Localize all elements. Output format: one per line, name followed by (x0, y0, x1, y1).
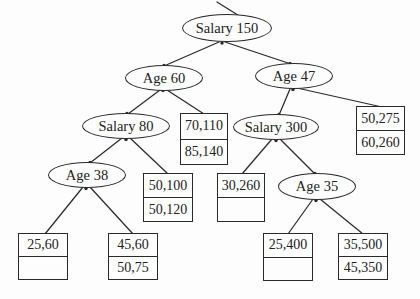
leaf-cell: 50,75 (109, 256, 157, 279)
tree-node-age-60: Age 60 (125, 65, 203, 91)
leaf-cell (19, 256, 67, 279)
edge-age60-leaf-70-110 (167, 90, 204, 114)
leaf-cell: 45,350 (339, 256, 387, 279)
tree-node-salary-150: Salary 150 (182, 14, 272, 42)
edge-salary80-age38 (90, 138, 122, 163)
tree-node-age-38: Age 38 (48, 162, 126, 188)
leaf-cell (218, 197, 264, 221)
edge-root-age60 (164, 42, 219, 66)
edge-age35-leaf-25-400 (288, 199, 313, 234)
leaf-block-45-60: 45,60 50,75 (108, 233, 158, 280)
tree-node-salary-300: Salary 300 (233, 114, 319, 140)
edge-salary300-age35 (280, 139, 315, 174)
leaf-block-25-400: 25,400 (263, 233, 313, 281)
edge-age47-salary300 (279, 89, 290, 115)
tree-node-age-35: Age 35 (278, 173, 356, 200)
edge-root-age47 (225, 42, 291, 64)
leaf-cell: 35,500 (339, 234, 387, 256)
leaf-block-35-500: 35,500 45,350 (338, 233, 388, 280)
leaf-cell: 60,260 (357, 130, 404, 154)
leaf-block-30-260: 30,260 (217, 173, 265, 222)
leaf-cell: 50,100 (144, 174, 192, 197)
edge-age47-leaf-50-275 (297, 88, 382, 107)
edge-age60-salary80 (128, 90, 160, 114)
leaf-cell: 30,260 (218, 174, 264, 197)
edge-age35-leaf-35-500 (320, 199, 363, 234)
leaf-block-70-110: 70,110 85,140 (180, 113, 228, 165)
leaf-cell (264, 257, 312, 281)
edge-salary80-leaf-50-100 (130, 138, 168, 174)
tree-node-salary-80: Salary 80 (82, 113, 170, 139)
edge-age38-leaf-45-60 (90, 187, 133, 234)
leaf-cell: 85,140 (181, 139, 227, 165)
edge-salary300-leaf-30-260 (242, 139, 272, 174)
leaf-cell: 50,275 (357, 107, 404, 130)
leaf-cell: 25,60 (19, 234, 67, 256)
edge-age38-leaf-25-60 (45, 187, 83, 234)
kd-tree-diagram: Salary 150 Age 60 Age 47 Salary 80 Salar… (0, 0, 420, 299)
leaf-block-50-100: 50,100 50,120 (143, 173, 193, 222)
leaf-cell: 25,400 (264, 234, 312, 257)
leaf-cell: 70,110 (181, 114, 227, 139)
leaf-block-25-60: 25,60 (18, 233, 68, 280)
tree-node-age-47: Age 47 (255, 63, 333, 89)
leaf-block-50-275: 50,275 60,260 (356, 106, 405, 155)
leaf-cell: 50,120 (144, 197, 192, 221)
leaf-cell: 45,60 (109, 234, 157, 256)
